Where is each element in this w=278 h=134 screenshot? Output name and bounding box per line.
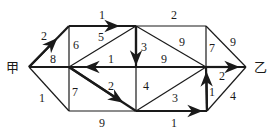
edge-start-A [29,26,69,67]
weight-start-D: 8 [50,52,56,66]
start-node-label: 甲 [6,60,19,75]
weight-D-B: 5 [98,30,104,44]
weight-D-H: 2 [108,79,114,93]
weight-I-end: 4 [230,89,236,103]
weight-start-G: 1 [39,91,45,105]
weight-start-A: 2 [41,29,47,43]
weight-A-B: 1 [99,8,105,22]
weight-H-F: 3 [172,91,178,105]
end-node-label: 乙 [254,60,267,75]
weight-E-D: 1 [108,52,114,66]
weight-E-F: 9 [161,52,167,66]
weight-C-F: 7 [209,41,215,55]
edge-start-G [29,67,69,111]
weight-A-D: 6 [73,38,79,52]
weight-F-end: 2 [219,69,225,83]
weight-I-F: 1 [209,85,215,99]
weight-E-H: 4 [143,79,149,93]
weight-B-C: 2 [171,8,177,22]
weight-D-G: 7 [72,85,78,99]
weight-H-I: 1 [171,116,177,130]
network-diagram: 甲 乙 2 1 2 6 5 3 9 7 9 8 1 9 2 1 7 2 4 3 … [0,0,278,134]
weight-B-F: 9 [179,35,185,49]
edge-I-F [206,67,207,111]
weight-G-H: 9 [99,116,105,130]
weight-C-end: 9 [230,35,236,49]
weight-B-E: 3 [141,40,147,54]
edge-D-H [69,67,136,111]
